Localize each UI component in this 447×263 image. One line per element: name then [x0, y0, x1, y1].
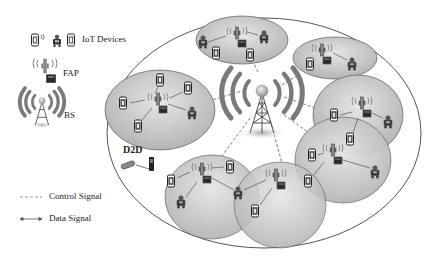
d2d-pair — [121, 157, 154, 171]
legend-iot-devices-label: IoT Devices — [82, 34, 126, 44]
d2d-phone-icon — [149, 157, 154, 171]
legend-bs-icon — [20, 88, 64, 128]
d2d-handheld-device-icon — [121, 160, 136, 169]
legend-bs-label: BS — [64, 110, 75, 120]
femto-cell-top-right — [293, 37, 377, 79]
legend-data-signal-label: Data Signal — [49, 213, 91, 223]
legend-watch-icon — [32, 34, 39, 46]
base-station — [222, 68, 303, 140]
legend-control-signal-label: Control Signal — [49, 191, 102, 201]
femto-cell-bottom-mid — [234, 162, 326, 248]
legend-iot-icons — [32, 34, 75, 47]
network-diagram: IoT Devices FAP BS Control Signal Data S… — [0, 0, 447, 263]
d2d-label: D2D — [123, 144, 142, 155]
bs-antenna-top — [256, 85, 268, 97]
legend-robot-icon — [53, 35, 61, 47]
legend-fap-icon — [33, 59, 57, 83]
legend-fap-label: FAP — [63, 68, 79, 78]
legend-data-signal-arrow-icon — [20, 218, 42, 221]
legend-watch2-icon — [68, 34, 75, 46]
